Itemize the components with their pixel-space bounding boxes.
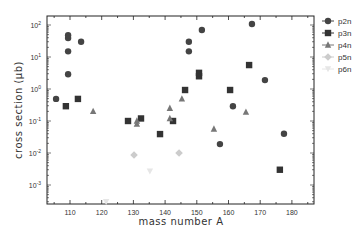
triangle-up-marker <box>167 105 173 111</box>
diamond-icon <box>324 53 332 61</box>
y-axis-label: cross section (μb) <box>13 61 24 159</box>
circle-marker <box>230 103 236 109</box>
data-points <box>53 21 287 205</box>
square-marker <box>157 131 163 137</box>
y-tick-label: 100 <box>30 84 41 93</box>
circle-marker <box>186 48 192 54</box>
square-marker <box>138 115 144 121</box>
y-tick-label: 10-2 <box>29 148 41 157</box>
circle-marker <box>65 71 71 77</box>
plot-frame <box>47 16 314 204</box>
circle-marker <box>281 131 287 137</box>
x-tick-label: 150 <box>191 209 203 216</box>
legend-label: p5n <box>338 53 351 62</box>
x-tick-label: 180 <box>286 209 298 216</box>
legend-label: p2n <box>338 17 351 26</box>
circle-marker <box>262 77 268 83</box>
y-tick-label: 10-1 <box>29 116 41 125</box>
x-axis-label: mass number A <box>138 216 223 227</box>
legend-label: p3n <box>338 29 351 38</box>
triangle-up-marker <box>179 95 185 101</box>
triangle-up-marker <box>211 125 217 131</box>
legend-label: p6n <box>338 65 351 74</box>
triangle-up-marker <box>243 108 249 114</box>
square-marker <box>63 103 69 109</box>
diamond-marker <box>130 151 138 159</box>
x-tick-label: 120 <box>96 209 108 216</box>
x-tick-label: 130 <box>128 209 140 216</box>
series-p2n <box>53 21 287 148</box>
triangle-down-marker <box>147 168 153 174</box>
y-tick-label: 10-3 <box>29 180 41 189</box>
square-marker <box>75 96 81 102</box>
circle-icon <box>325 18 331 24</box>
x-axis: 110120130140150160170180 <box>54 16 308 216</box>
legend-item-p6n: p6n <box>322 65 351 74</box>
square-marker <box>125 118 131 124</box>
series-p6n <box>103 168 153 204</box>
circle-marker <box>199 27 205 33</box>
circle-marker <box>78 39 84 45</box>
x-tick-label: 110 <box>64 209 75 216</box>
legend-item-p3n: p3n <box>322 29 351 38</box>
triangle-up-marker <box>90 108 96 114</box>
x-tick-label: 160 <box>223 209 235 216</box>
x-tick-label: 170 <box>254 209 266 216</box>
x-tick-label: 140 <box>159 209 171 216</box>
square-marker <box>227 87 233 93</box>
circle-marker <box>65 32 71 38</box>
y-tick-label: 102 <box>30 20 41 29</box>
legend-item-p2n: p2n <box>322 17 351 26</box>
square-marker <box>277 167 283 173</box>
scatter-chart: 110120130140150160170180 10210110010-110… <box>0 0 363 239</box>
square-marker <box>196 70 202 76</box>
legend-item-p4n: p4n <box>322 41 351 50</box>
circle-marker <box>65 48 71 54</box>
legend: p2np3np4np5np6n <box>322 17 351 74</box>
y-tick-label: 101 <box>30 52 41 61</box>
square-icon <box>325 30 331 36</box>
circle-marker <box>249 21 255 27</box>
legend-label: p4n <box>338 41 351 50</box>
circle-marker <box>217 141 223 147</box>
square-marker <box>246 62 252 68</box>
diamond-marker <box>175 149 183 157</box>
series-p4n <box>90 95 249 132</box>
series-p3n <box>63 62 283 173</box>
square-marker <box>182 87 188 93</box>
legend-item-p5n: p5n <box>322 53 351 62</box>
circle-marker <box>53 96 59 102</box>
series-p5n <box>130 149 183 159</box>
circle-marker <box>186 39 192 45</box>
